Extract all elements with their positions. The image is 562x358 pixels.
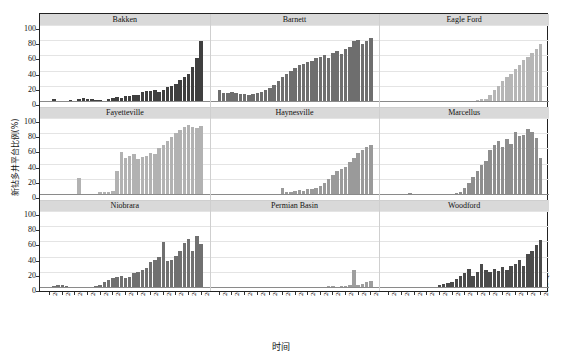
bar — [344, 286, 347, 287]
bar — [107, 192, 110, 194]
plot-area — [210, 25, 380, 107]
bar — [170, 86, 173, 101]
bar-series — [210, 25, 380, 107]
bar — [348, 285, 351, 287]
bar — [230, 92, 233, 101]
bar — [493, 145, 496, 194]
bar-series — [379, 211, 549, 293]
bar — [111, 278, 114, 287]
bar — [539, 158, 542, 194]
y-tick-label: 0 — [2, 194, 36, 202]
bar — [166, 261, 169, 287]
bar — [166, 141, 169, 194]
bar — [298, 190, 301, 194]
y-tick-label: 80 — [2, 226, 36, 234]
y-tick-label: 60 — [2, 55, 36, 63]
bar — [145, 91, 148, 101]
bar — [331, 175, 334, 194]
bar — [145, 268, 148, 287]
bar — [446, 283, 449, 287]
bar — [136, 95, 139, 101]
bar — [348, 47, 351, 101]
bar — [365, 282, 368, 287]
bar — [327, 58, 330, 101]
bar — [268, 88, 271, 101]
bar — [178, 80, 181, 101]
bar — [199, 41, 202, 101]
chart-root: 新钻多井平台比例(%) 时间 0204060801000204060801000… — [0, 0, 562, 358]
bar — [141, 92, 144, 101]
bar — [243, 94, 246, 101]
bar — [530, 53, 533, 101]
bar — [509, 266, 512, 287]
bar — [115, 277, 118, 287]
y-tick-label: 80 — [2, 133, 36, 141]
y-tick-label: 100 — [2, 211, 36, 219]
bar — [501, 147, 504, 194]
bar — [501, 267, 504, 287]
bar — [488, 95, 491, 101]
bar — [285, 74, 288, 101]
bar-series — [40, 118, 210, 200]
y-tick-label: 0 — [2, 287, 36, 295]
bar — [471, 177, 474, 194]
bar — [484, 270, 487, 287]
bar — [335, 51, 338, 101]
bar — [132, 95, 135, 101]
bar — [103, 282, 106, 287]
bar — [459, 276, 462, 287]
plot-area — [379, 25, 549, 107]
panel-eagle-ford: Eagle Ford — [379, 14, 549, 107]
bar — [310, 189, 313, 194]
bar — [369, 38, 372, 101]
bar — [501, 81, 504, 101]
y-tick-label: 20 — [2, 272, 36, 280]
panel-barnett: Barnett — [210, 14, 380, 107]
bar — [356, 285, 359, 287]
bar — [310, 61, 313, 101]
bar — [281, 77, 284, 101]
bar — [497, 86, 500, 101]
bar — [107, 280, 110, 287]
bar — [103, 192, 106, 194]
bar — [530, 251, 533, 287]
bar — [239, 94, 242, 101]
bar — [124, 96, 127, 101]
bar — [111, 98, 114, 101]
bar — [187, 74, 190, 101]
bar — [174, 256, 177, 287]
bar — [178, 251, 181, 287]
bar — [331, 286, 334, 287]
bar — [136, 159, 139, 194]
panel-row-separator — [40, 107, 547, 108]
bar — [302, 64, 305, 101]
bar — [298, 65, 301, 101]
bar — [251, 94, 254, 101]
bar — [488, 272, 491, 287]
bar — [132, 154, 135, 194]
bar-series — [379, 25, 549, 107]
plot-area — [210, 211, 380, 293]
panel-row-separator — [40, 200, 547, 201]
y-tick-label: 20 — [2, 179, 36, 187]
bar — [162, 145, 165, 194]
bar — [408, 193, 411, 194]
bar — [195, 128, 198, 194]
y-tick-label: 0 — [2, 101, 36, 109]
bar — [365, 147, 368, 194]
bar — [314, 58, 317, 101]
bar — [120, 98, 123, 101]
bar — [98, 192, 101, 194]
bar — [314, 188, 317, 194]
bar — [157, 92, 160, 101]
bar — [463, 273, 466, 287]
bar — [256, 93, 259, 101]
bar — [497, 271, 500, 287]
bar — [162, 242, 165, 287]
y-tick-label: 40 — [2, 71, 36, 79]
bar — [149, 91, 152, 101]
bar — [115, 171, 118, 194]
bar — [459, 192, 462, 194]
bar — [191, 127, 194, 194]
y-tick-label: 100 — [2, 118, 36, 126]
